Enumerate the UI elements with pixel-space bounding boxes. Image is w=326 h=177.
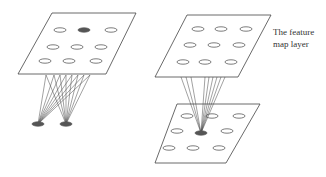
neuron [221, 129, 233, 133]
feature-map-label: The feature map layer [273, 26, 314, 50]
neuron [225, 60, 237, 64]
neuron [187, 146, 199, 150]
focus-node [195, 131, 207, 135]
neuron [39, 59, 51, 63]
neuron [192, 27, 204, 31]
feature-map-label-line2: map layer [273, 38, 314, 50]
neuron [233, 43, 245, 47]
neuron [163, 146, 175, 150]
neuron [63, 59, 75, 63]
neuron [240, 27, 252, 31]
active-neuron [78, 28, 90, 32]
feature-map-label-line1: The feature [273, 26, 314, 38]
neuron [71, 45, 83, 49]
neuron [54, 28, 66, 32]
neuron [215, 27, 227, 31]
diagram-canvas: The feature map layer [0, 0, 326, 177]
neuron [105, 28, 117, 32]
neuron [177, 60, 189, 64]
input-layer-plane [18, 13, 136, 74]
neuron [199, 60, 211, 64]
output-node [60, 122, 72, 126]
neuron [213, 146, 225, 150]
output-node [32, 122, 44, 126]
neuron [47, 45, 59, 49]
feature-map-plane-bottom [155, 104, 260, 163]
neuron [90, 59, 102, 63]
neuron [95, 45, 107, 49]
neuron [184, 43, 196, 47]
connection-line [66, 75, 84, 124]
connection-line [66, 75, 90, 124]
neuron [181, 114, 193, 118]
neuron [233, 114, 245, 118]
neuron [171, 129, 183, 133]
neuron [208, 43, 220, 47]
